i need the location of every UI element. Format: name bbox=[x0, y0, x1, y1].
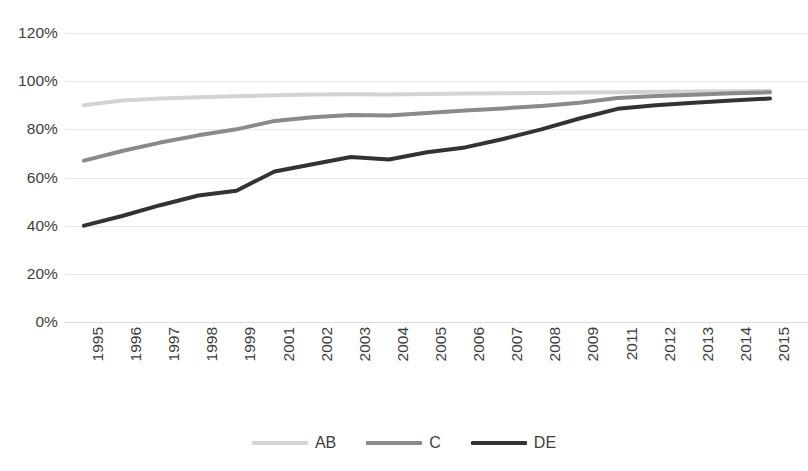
x-axis-tick-label-1997: 1997 bbox=[166, 327, 182, 361]
legend-label-C: C bbox=[429, 435, 441, 451]
x-axis-tick-label-2004: 2004 bbox=[395, 327, 411, 361]
legend-swatch-AB bbox=[252, 441, 308, 445]
legend-item-DE[interactable]: DE bbox=[471, 435, 556, 451]
x-axis-tick-label-2006: 2006 bbox=[471, 327, 487, 361]
x-axis-tick-label-1996: 1996 bbox=[128, 327, 144, 361]
x-axis-tick-label-2003: 2003 bbox=[357, 327, 373, 361]
chart-legend: ABCDE bbox=[0, 428, 808, 458]
legend-swatch-DE bbox=[471, 441, 527, 445]
x-axis-tick-label-2011: 2011 bbox=[624, 327, 640, 360]
legend-label-AB: AB bbox=[315, 435, 336, 451]
x-axis-tick-label-1999: 1999 bbox=[242, 327, 258, 361]
x-axis: 1995199619971998199920012002200320042005… bbox=[0, 0, 808, 471]
x-axis-tick-label-2014: 2014 bbox=[738, 327, 754, 361]
legend-swatch-C bbox=[366, 441, 422, 445]
x-axis-tick-label-2007: 2007 bbox=[509, 327, 525, 361]
x-axis-tick-label-2001: 2001 bbox=[281, 327, 297, 361]
legend-item-AB[interactable]: AB bbox=[252, 435, 336, 451]
x-axis-tick-label-2009: 2009 bbox=[585, 327, 601, 361]
legend-item-C[interactable]: C bbox=[366, 435, 441, 451]
x-axis-tick-label-2015: 2015 bbox=[776, 327, 792, 361]
x-axis-tick-label-1998: 1998 bbox=[204, 327, 220, 361]
x-axis-tick-label-1995: 1995 bbox=[90, 327, 106, 361]
legend-label-DE: DE bbox=[534, 435, 556, 451]
line-chart: 0%20%40%60%80%100%120% 19951996199719981… bbox=[0, 0, 808, 471]
x-axis-tick-label-2012: 2012 bbox=[662, 327, 678, 361]
x-axis-tick-label-2005: 2005 bbox=[433, 327, 449, 361]
x-axis-tick-label-2013: 2013 bbox=[700, 327, 716, 361]
x-axis-tick-label-2002: 2002 bbox=[319, 327, 335, 361]
x-axis-tick-label-2008: 2008 bbox=[547, 327, 563, 361]
